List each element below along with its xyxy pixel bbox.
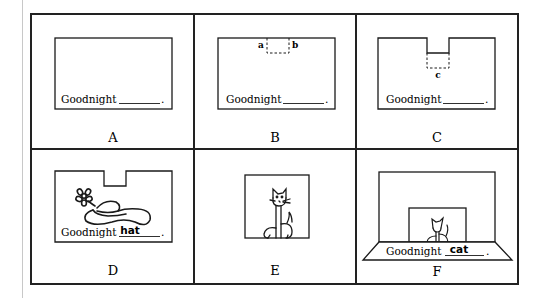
goodnight-diagram: Goodnight . A a b Goodnight . B c Goodni…: [0, 0, 545, 298]
panel-f-caption: Goodnight: [386, 245, 442, 257]
panel-b-caption: Goodnight: [226, 93, 282, 105]
panel-b: a b Goodnight . B: [218, 38, 335, 145]
cat-small-illustration: [427, 218, 448, 242]
panel-f-label: F: [432, 264, 441, 279]
panel-c: c Goodnight . C: [378, 38, 495, 145]
panel-a-caption: Goodnight: [61, 93, 117, 105]
panel-f-answer: cat: [450, 243, 468, 255]
panel-d: Goodnight hat . D: [55, 171, 172, 278]
panel-b-label: B: [270, 130, 280, 145]
panel-b-period: .: [325, 93, 328, 105]
panel-d-period: .: [161, 226, 164, 238]
panel-d-answer: hat: [120, 224, 140, 236]
panel-c-marker-c: c: [435, 70, 441, 80]
panel-c-dashed-notch: [427, 53, 449, 68]
panel-b-marker-a: a: [258, 40, 264, 50]
panel-b-dashed-notch: [267, 38, 289, 53]
panel-b-marker-b: b: [292, 40, 298, 50]
panel-e-label: E: [270, 263, 280, 278]
cat-illustration: [264, 189, 292, 238]
panel-c-period: .: [485, 93, 488, 105]
panel-f-period: .: [486, 245, 489, 257]
panel-a: Goodnight . A: [55, 38, 172, 145]
panel-f: Goodnight cat . F: [363, 172, 512, 279]
panel-c-label: C: [432, 130, 442, 145]
panel-d-caption: Goodnight: [61, 226, 117, 238]
panel-a-label: A: [107, 130, 118, 145]
hat-illustration: [75, 188, 150, 225]
panel-e: E: [245, 175, 309, 278]
panel-e-box: [245, 175, 309, 238]
panel-f-inner-box: [409, 208, 466, 242]
panel-a-period: .: [161, 93, 164, 105]
panel-d-label: D: [108, 263, 118, 278]
panel-c-caption: Goodnight: [386, 93, 442, 105]
